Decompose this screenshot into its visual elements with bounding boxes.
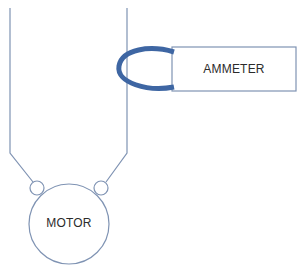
right-terminal xyxy=(94,181,108,195)
motor-label: MOTOR xyxy=(29,216,109,230)
right-wire xyxy=(106,8,127,182)
left-wire xyxy=(10,8,33,182)
left-terminal xyxy=(30,181,44,195)
ammeter-label: AMMETER xyxy=(172,62,296,76)
motor-ammeter-diagram xyxy=(0,0,304,276)
